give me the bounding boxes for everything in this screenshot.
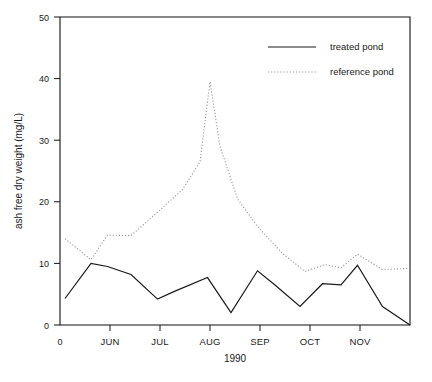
series-line-treated-pond: [65, 263, 410, 325]
legend-label-treated-pond: treated pond: [330, 41, 383, 52]
x-tick-label: SEP: [250, 336, 270, 347]
plot-frame: [60, 17, 410, 325]
chart-legend: treated pond reference pond: [253, 28, 411, 80]
x-axis-title: 1990: [224, 353, 247, 364]
y-axis: 01020304050: [39, 13, 60, 331]
legend-label-reference-pond: reference pond: [330, 66, 394, 77]
chart-container: 01020304050 0JUNJULAUGSEPOCTNOV ash free…: [0, 0, 432, 382]
y-axis-title: ash free dry weight (mg/L): [13, 113, 24, 229]
y-tick-label: 30: [39, 136, 49, 146]
x-tick-label: 0: [57, 337, 62, 347]
line-chart: 01020304050 0JUNJULAUGSEPOCTNOV ash free…: [0, 0, 432, 382]
x-tick-label: JUL: [151, 336, 169, 347]
y-tick-label: 40: [39, 74, 49, 84]
x-tick-label: NOV: [349, 336, 371, 347]
y-tick-label: 50: [39, 13, 49, 23]
x-tick-label: AUG: [199, 336, 220, 347]
y-tick-label: 0: [44, 321, 49, 331]
x-tick-label: OCT: [300, 336, 321, 347]
series-line-reference-pond: [65, 82, 410, 272]
x-tick-label: JUN: [100, 336, 119, 347]
data-series-group: [65, 82, 410, 325]
y-tick-label: 20: [39, 197, 49, 207]
x-axis: 0JUNJULAUGSEPOCTNOV: [57, 325, 371, 347]
y-tick-label: 10: [39, 259, 49, 269]
